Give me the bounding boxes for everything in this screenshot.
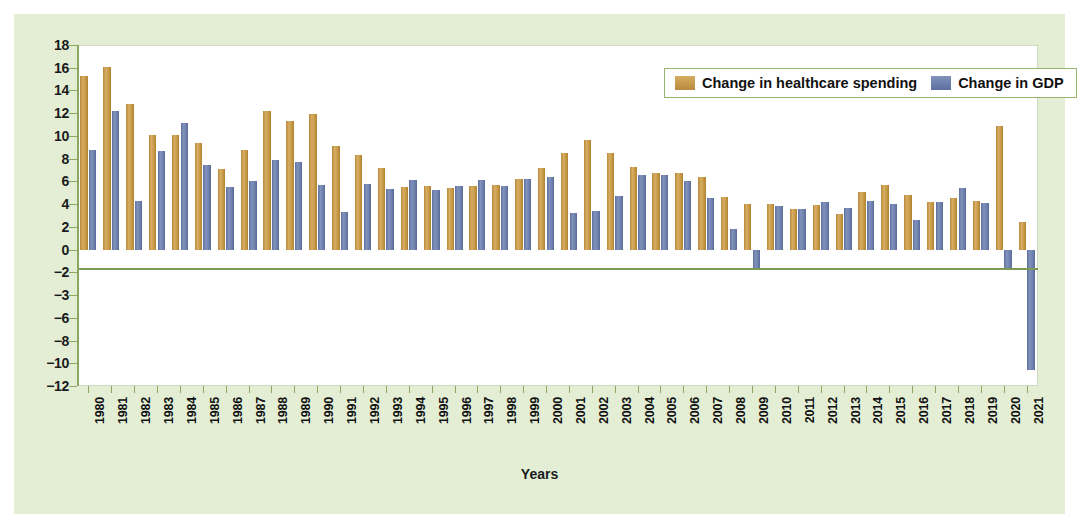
y-axis-tick-label: 8 (62, 152, 70, 166)
bar (858, 192, 865, 250)
bar (126, 104, 133, 249)
bar (424, 186, 431, 250)
x-axis-tick (1027, 386, 1028, 393)
y-axis-tick-label: 14 (54, 83, 69, 97)
y-axis-tick-label: −3 (54, 288, 69, 302)
bar (730, 229, 737, 249)
bar (249, 181, 256, 249)
x-axis-tick-label: 2016 (917, 397, 931, 424)
x-axis-title: Years (14, 466, 1065, 482)
x-axis-zero-line (77, 268, 1038, 270)
x-axis-tick-label: 1988 (276, 397, 290, 424)
x-axis-tick-label: 2011 (803, 397, 817, 423)
chart-figure: 181614121086420−2−3−6−8−10−12 1980198119… (14, 14, 1065, 514)
legend-label-healthcare-spending: Change in healthcare spending (702, 75, 917, 91)
x-axis-tick-label: 1994 (414, 397, 428, 424)
x-axis-tick-label: 2015 (894, 397, 908, 424)
y-axis-tick-label: −2 (54, 265, 69, 279)
x-axis-tick-label: 2003 (620, 397, 634, 424)
bar (341, 212, 348, 250)
y-axis-tick-label: −6 (54, 311, 69, 325)
x-axis-tick-label: 1987 (254, 397, 268, 424)
x-axis-tick (317, 386, 318, 393)
x-axis-tick (958, 386, 959, 393)
bar (767, 204, 774, 249)
y-axis-tick (69, 68, 77, 69)
x-axis-tick (386, 386, 387, 393)
x-axis-tick (683, 386, 684, 393)
y-axis-tick-label: 12 (54, 106, 69, 120)
x-axis-tick-label: 2013 (849, 397, 863, 424)
bar (753, 250, 760, 268)
x-axis-tick (477, 386, 478, 393)
x-axis-tick (1004, 386, 1005, 393)
x-axis-tick-label: 2018 (963, 397, 977, 424)
bar (447, 188, 454, 249)
bar (318, 185, 325, 250)
x-axis-tick (844, 386, 845, 393)
y-axis-tick-label: 18 (54, 38, 69, 52)
bar (432, 190, 439, 249)
bar (821, 202, 828, 250)
y-axis-tick-label: 6 (62, 174, 70, 188)
x-axis-tick (569, 386, 570, 393)
x-axis-tick-label: 2005 (665, 397, 679, 424)
x-axis-tick-label: 2007 (711, 397, 725, 424)
bar (950, 198, 957, 249)
y-axis-tick (69, 45, 77, 46)
y-axis-labels: 181614121086420−2−3−6−8−10−12 (11, 45, 69, 386)
y-axis-tick (69, 113, 77, 114)
x-axis-tick (592, 386, 593, 393)
x-axis-tick-label: 1982 (139, 397, 153, 424)
y-axis-tick-label: 10 (54, 129, 69, 143)
bar (226, 187, 233, 250)
y-axis-tick (69, 295, 77, 296)
y-axis-tick-label: −12 (46, 379, 69, 393)
x-axis-tick (798, 386, 799, 393)
bar (263, 111, 270, 250)
x-axis-tick-label: 2000 (551, 397, 565, 424)
bar (112, 111, 119, 250)
x-axis-tick-label: 2009 (757, 397, 771, 424)
bar (813, 205, 820, 249)
bar (684, 181, 691, 249)
x-axis-tick-label: 1999 (528, 397, 542, 424)
y-axis-tick (69, 272, 77, 273)
bar (1019, 222, 1026, 249)
bar (959, 188, 966, 249)
x-axis-tick-label: 1986 (231, 397, 245, 424)
bar (996, 126, 1003, 250)
x-axis-tick (866, 386, 867, 393)
x-axis-tick (157, 386, 158, 393)
x-axis-tick-label: 1998 (505, 397, 519, 424)
x-axis-tick (615, 386, 616, 393)
bar (661, 175, 668, 250)
y-axis-tick (69, 318, 77, 319)
bar (195, 143, 202, 250)
bar (295, 162, 302, 250)
x-axis-tick-label: 1980 (93, 397, 107, 424)
y-axis-tick-label: 2 (62, 220, 70, 234)
x-axis-tick-label: 2004 (643, 397, 657, 424)
bar (478, 180, 485, 249)
x-axis-tick-label: 1990 (322, 397, 336, 424)
legend-item-gdp: Change in GDP (931, 75, 1064, 91)
bar (455, 186, 462, 250)
bar (721, 197, 728, 249)
x-axis-tick (432, 386, 433, 393)
x-axis-tick (294, 386, 295, 393)
y-axis-tick-label: −10 (46, 356, 69, 370)
y-axis-tick-label: 0 (62, 243, 70, 257)
bar (913, 220, 920, 250)
bar (844, 208, 851, 250)
bar (698, 177, 705, 250)
bar (615, 196, 622, 249)
bar (181, 123, 188, 249)
bar (592, 211, 599, 250)
bar (973, 201, 980, 250)
y-axis-tick (69, 204, 77, 205)
bar (469, 186, 476, 250)
x-axis-tick (981, 386, 982, 393)
bar (272, 160, 279, 250)
bar (401, 187, 408, 250)
